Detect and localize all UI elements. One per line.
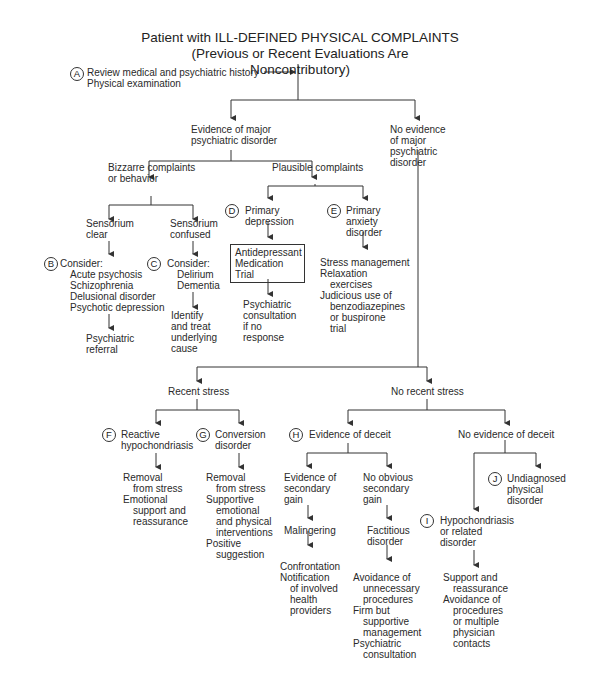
malingering-mgmt-line: providers (280, 605, 340, 616)
flowchart: Patient with ILL-DEFINED PHYSICAL COMPLA… (0, 0, 594, 683)
step-j-node: Undiagnosed physical disorder (507, 473, 566, 506)
f-treatment-line: Emotional (123, 494, 188, 505)
step-h-node: Evidence of deceit (309, 429, 391, 440)
f-treatment-line: from stress (123, 483, 188, 494)
step-c-item: Delirium (167, 269, 220, 280)
secondary-gain-line: Evidence of (284, 472, 336, 483)
factitious-line: disorder (367, 536, 410, 547)
secondary-gain-line: gain (284, 494, 336, 505)
step-d-node: Primary depression (245, 205, 294, 227)
malingering-management-node: Confrontation Notification of involved h… (280, 561, 340, 616)
step-b-marker: B (44, 257, 58, 271)
bizarre-node: Bizzarre complaints or behavior (108, 162, 195, 184)
anxiety-line: Judicious use of (320, 290, 410, 301)
factitious-mgmt-line: management (353, 627, 421, 638)
step-i-line: Hypochondriasis (440, 515, 514, 526)
no-recent-stress-node: No recent stress (391, 386, 464, 397)
no-secondary-gain-line: No obvious (363, 472, 413, 483)
step-j-marker: J (488, 472, 502, 486)
step-f-line-2: hypochondriasis (121, 440, 193, 451)
step-i-management-node: Support and reassurance Avoidance of pro… (443, 572, 508, 649)
step-j-line: physical (507, 484, 566, 495)
g-treatment-line: Positive (206, 538, 273, 549)
no-recent-stress-label: No recent stress (391, 386, 464, 397)
anxiety-line: trial (320, 323, 410, 334)
step-c-node: Consider: Delirium Dementia (167, 258, 220, 291)
i-mgmt-line: Support and (443, 572, 508, 583)
no-evidence-line-4: disorder (390, 157, 446, 168)
consult-line-1: Psychiatric (243, 299, 296, 310)
g-treatment-line: Removal (206, 472, 273, 483)
step-j-line: Undiagnosed (507, 473, 566, 484)
secondary-gain-node: Evidence of secondary gain (284, 472, 336, 505)
g-treatment-line: from stress (206, 483, 273, 494)
g-treatment-line: Supportive (206, 494, 273, 505)
identify-line-3: underlying (171, 332, 217, 343)
step-a-text: Review medical and psychiatric history P… (87, 67, 259, 89)
step-a-marker: A (70, 67, 84, 81)
step-c-marker: C (147, 257, 161, 271)
f-treatment-line: Removal (123, 472, 188, 483)
step-a-line-2: Physical examination (87, 78, 259, 89)
sensorium-confused-line-1: Sensorium (170, 218, 218, 229)
no-evidence-line-1: No evidence (390, 124, 446, 135)
malingering-mgmt-line: Notification (280, 572, 340, 583)
box-line-3: Trial (235, 269, 300, 280)
factitious-mgmt-line: Firm but (353, 605, 421, 616)
factitious-mgmt-line: consultation (353, 649, 421, 660)
step-i-marker: I (420, 514, 434, 528)
g-treatment-line: and physical (206, 516, 273, 527)
anxiety-line: benzodiazepines (320, 301, 410, 312)
box-line-2: Medication (235, 258, 300, 269)
title-line-1: Patient with ILL-DEFINED PHYSICAL COMPLA… (140, 30, 460, 46)
identify-line-1: Identify (171, 310, 217, 321)
step-i-line: or related (440, 526, 514, 537)
anxiety-line: Stress management (320, 257, 410, 268)
anxiety-line: or buspirone (320, 312, 410, 323)
anxiety-line: exercises (320, 279, 410, 290)
anxiety-management-node: Stress management Relaxation exercises J… (320, 257, 410, 334)
secondary-gain-line: secondary (284, 483, 336, 494)
step-b-item: Schizophrenia (60, 280, 165, 291)
step-f-marker: F (102, 428, 116, 442)
evidence-major-line-2: psychiatric disorder (191, 135, 277, 146)
step-g-line-2: disorder (215, 440, 266, 451)
malingering-mgmt-line: Confrontation (280, 561, 340, 572)
step-e-marker: E (327, 204, 341, 218)
step-g-treatment-node: Removal from stress Supportive emotional… (206, 472, 273, 560)
psychiatric-consultation-node: Psychiatric consultation if no response (243, 299, 296, 343)
step-h-line-1: Evidence of deceit (309, 429, 391, 440)
recent-stress-label: Recent stress (168, 386, 229, 397)
no-secondary-gain-line: gain (363, 494, 413, 505)
step-f-line-1: Reactive (121, 429, 193, 440)
factitious-mgmt-line: procedures (353, 594, 421, 605)
step-a-line-1: Review medical and psychiatric history (87, 67, 259, 78)
step-d-line-2: depression (245, 216, 294, 227)
step-c-item: Dementia (167, 280, 220, 291)
step-i-line: disorder (440, 537, 514, 548)
no-evidence-major-node: No evidence of major psychiatric disorde… (390, 124, 446, 168)
step-g-line-1: Conversion (215, 429, 266, 440)
no-deceit-label: No evidence of deceit (458, 429, 554, 440)
referral-line-2: referral (86, 344, 134, 355)
factitious-mgmt-line: supportive (353, 616, 421, 627)
step-f-node: Reactive hypochondriasis (121, 429, 193, 451)
step-b-item: Psychotic depression (60, 302, 165, 313)
no-secondary-gain-line: secondary (363, 483, 413, 494)
bizarre-line-1: Bizzarre complaints (108, 162, 195, 173)
malingering-label: Malingering (284, 525, 336, 536)
step-e-node: Primary anxiety disorder (346, 205, 382, 238)
recent-stress-node: Recent stress (168, 386, 229, 397)
factitious-mgmt-line: unnecessary (353, 583, 421, 594)
bizarre-line-2: or behavior (108, 173, 195, 184)
identify-line-4: cause (171, 343, 217, 354)
step-g-marker: G (196, 428, 210, 442)
evidence-major-line-1: Evidence of major (191, 124, 277, 135)
malingering-mgmt-line: of involved (280, 583, 340, 594)
antidepressant-trial-box: Antidepressant Medication Trial (230, 244, 305, 283)
factitious-line: Factitious (367, 525, 410, 536)
plausible-node: Plausible complaints (272, 162, 363, 173)
referral-line-1: Psychiatric (86, 333, 134, 344)
i-mgmt-line: reassurance (443, 583, 508, 594)
evidence-major-node: Evidence of major psychiatric disorder (191, 124, 277, 146)
